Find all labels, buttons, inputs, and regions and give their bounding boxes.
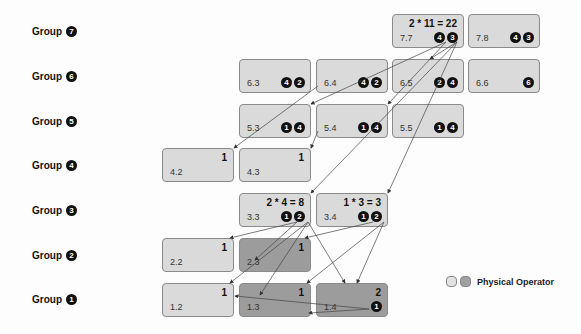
legend-light-swatch xyxy=(446,276,457,287)
legend-label: Physical Operator xyxy=(477,277,554,287)
legend-dark-swatch xyxy=(460,276,471,287)
legend: Physical Operator xyxy=(446,276,554,287)
